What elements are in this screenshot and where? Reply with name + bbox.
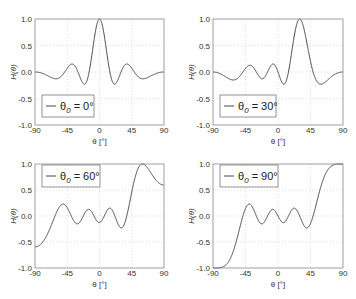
x-tick-label: 45 — [127, 126, 136, 135]
legend: θ0 = 30° — [220, 95, 278, 117]
y-tick-label: 0.0 — [199, 212, 211, 221]
x-tick-label: 45 — [127, 269, 136, 278]
legend: θ0 = 90° — [220, 165, 278, 187]
x-tick-label: 90 — [160, 269, 169, 278]
x-tick-label: -45 — [61, 126, 73, 135]
y-tick-label: 1.0 — [21, 15, 33, 24]
y-tick-label: -0.5 — [196, 238, 210, 247]
x-tick-label: 90 — [160, 126, 169, 135]
x-tick-label: -45 — [240, 269, 252, 278]
subplot-theta0-60: -90-45045901.00.50.0-0.5-1.0θ [°]H(θ)θ0 … — [9, 160, 169, 289]
x-axis-label: θ [°] — [92, 280, 106, 289]
subplot-theta0-90: -90-45045901.00.50.0-0.5-1.0θ [°]H(θ)θ0 … — [187, 160, 348, 289]
y-tick-label: -1.0 — [18, 121, 32, 130]
x-tick-label: 45 — [306, 126, 315, 135]
y-tick-label: 0.5 — [199, 186, 211, 195]
y-tick-label: 0.0 — [21, 68, 33, 77]
y-axis-label: H(θ) — [187, 208, 196, 224]
y-axis-label: H(θ) — [187, 64, 196, 80]
y-tick-label: -1.0 — [196, 264, 210, 273]
y-tick-label: 0.0 — [199, 68, 211, 77]
x-axis-label: θ [°] — [92, 137, 106, 146]
y-tick-label: 1.0 — [21, 160, 33, 169]
x-tick-label: 45 — [306, 269, 315, 278]
figure: -90-45045901.00.50.0-0.5-1.0θ [°]H(θ)θ0 … — [0, 0, 356, 299]
subplot-theta0-0: -90-45045901.00.50.0-0.5-1.0θ [°]H(θ)θ0 … — [9, 15, 169, 146]
x-tick-label: -45 — [240, 126, 252, 135]
y-tick-label: 0.0 — [21, 212, 33, 221]
x-tick-label: 90 — [339, 126, 348, 135]
x-tick-label: 90 — [339, 269, 348, 278]
y-tick-label: 1.0 — [199, 160, 211, 169]
y-tick-label: 0.5 — [21, 42, 33, 51]
x-axis-label: θ [°] — [271, 137, 285, 146]
legend: θ0 = 0° — [42, 95, 94, 117]
x-tick-label: 0 — [97, 126, 102, 135]
y-tick-label: 0.5 — [199, 42, 211, 51]
y-axis-label: H(θ) — [9, 64, 18, 80]
legend: θ0 = 60° — [42, 165, 100, 187]
y-tick-label: -1.0 — [18, 264, 32, 273]
subplot-theta0-30: -90-45045901.00.50.0-0.5-1.0θ [°]H(θ)θ0 … — [187, 15, 348, 146]
y-tick-label: 0.5 — [21, 186, 33, 195]
y-tick-label: 1.0 — [199, 15, 211, 24]
y-tick-label: -0.5 — [18, 95, 32, 104]
x-tick-label: 0 — [97, 269, 102, 278]
x-tick-label: 0 — [276, 126, 281, 135]
y-axis-label: H(θ) — [9, 208, 18, 224]
y-tick-label: -1.0 — [196, 121, 210, 130]
x-tick-label: -45 — [61, 269, 73, 278]
y-tick-label: -0.5 — [18, 238, 32, 247]
y-tick-label: -0.5 — [196, 95, 210, 104]
x-tick-label: 0 — [276, 269, 281, 278]
x-axis-label: θ [°] — [271, 280, 285, 289]
